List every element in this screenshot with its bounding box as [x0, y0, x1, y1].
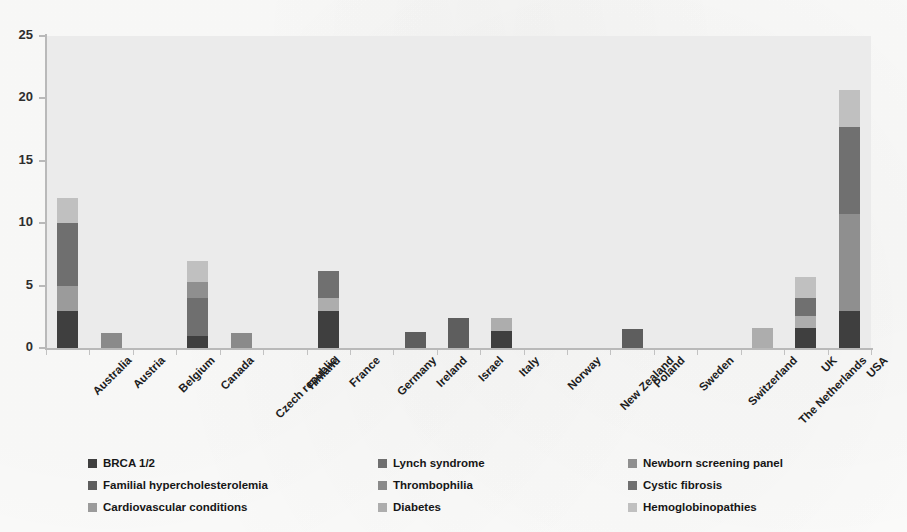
- x-axis-label-ireland: Ireland: [434, 354, 469, 389]
- y-tick-label: 25: [3, 27, 33, 42]
- legend-label: Cystic fibrosis: [643, 479, 722, 491]
- legend-item[interactable]: Cardiovascular conditions: [88, 501, 378, 513]
- legend-label: Thrombophilia: [393, 479, 473, 491]
- bar-canada[interactable]: [187, 261, 208, 348]
- x-axis-label-belgium: Belgium: [176, 354, 217, 395]
- x-tick-mark: [871, 350, 872, 355]
- legend-swatch-icon: [88, 503, 97, 512]
- x-tick-mark: [263, 350, 264, 355]
- x-tick-mark: [784, 350, 785, 355]
- legend-item[interactable]: Hemoglobinopathies: [628, 501, 888, 513]
- x-axis-label-germany: Germany: [394, 354, 438, 398]
- x-axis-label-new-zealand: New Zealand: [617, 354, 675, 412]
- legend-swatch-icon: [88, 481, 97, 490]
- legend-swatch-icon: [88, 459, 97, 468]
- bar-segment: [491, 331, 512, 348]
- bar-austria[interactable]: [101, 333, 122, 348]
- legend-label: Diabetes: [393, 501, 441, 513]
- legend-item[interactable]: BRCA 1/2: [88, 457, 378, 469]
- x-tick-mark: [610, 350, 611, 355]
- bar-segment: [318, 298, 339, 310]
- bars-layer: [46, 36, 871, 348]
- legend-label: Familial hypercholesterolemia: [103, 479, 268, 491]
- legend-item[interactable]: Cystic fibrosis: [628, 479, 888, 491]
- y-tick-label: 0: [3, 339, 33, 354]
- y-tick-label: 15: [3, 152, 33, 167]
- x-tick-mark: [89, 350, 90, 355]
- legend-item[interactable]: Thrombophilia: [378, 479, 628, 491]
- legend-item[interactable]: Newborn screening panel: [628, 457, 888, 469]
- bar-poland[interactable]: [622, 329, 643, 348]
- bar-czech-republic[interactable]: [231, 333, 252, 348]
- legend-item[interactable]: Familial hypercholesterolemia: [88, 479, 378, 491]
- x-axis-label-austria: Austria: [131, 354, 168, 391]
- bar-australia[interactable]: [57, 198, 78, 348]
- bar-segment: [187, 282, 208, 298]
- x-tick-mark: [697, 350, 698, 355]
- legend-swatch-icon: [628, 481, 637, 490]
- x-tick-mark: [46, 350, 47, 355]
- x-axis-label-sweden: Sweden: [696, 354, 735, 393]
- bar-segment: [795, 316, 816, 328]
- bar-segment: [795, 298, 816, 315]
- legend-label: Hemoglobinopathies: [643, 501, 757, 513]
- bar-segment: [57, 198, 78, 223]
- legend-label: Newborn screening panel: [643, 457, 783, 469]
- x-axis-label-norway: Norway: [565, 354, 603, 392]
- legend-item[interactable]: Diabetes: [378, 501, 628, 513]
- bar-uk[interactable]: [795, 277, 816, 348]
- bar-segment: [795, 328, 816, 348]
- x-tick-mark: [133, 350, 134, 355]
- x-tick-mark: [741, 350, 742, 355]
- bar-segment: [839, 214, 860, 310]
- bar-segment: [448, 318, 469, 348]
- x-tick-mark: [437, 350, 438, 355]
- bar-ireland[interactable]: [405, 332, 426, 348]
- x-tick-mark: [567, 350, 568, 355]
- bar-segment: [491, 318, 512, 330]
- bar-segment: [101, 333, 122, 348]
- legend-swatch-icon: [378, 503, 387, 512]
- bar-segment: [795, 277, 816, 298]
- bar-segment: [839, 311, 860, 348]
- x-axis-label-switzerland: Switzerland: [746, 354, 800, 408]
- legend-label: BRCA 1/2: [103, 457, 155, 469]
- x-tick-mark: [654, 350, 655, 355]
- bar-segment: [187, 298, 208, 335]
- bar-segment: [752, 328, 773, 348]
- legend-swatch-icon: [628, 459, 637, 468]
- bar-israel[interactable]: [448, 318, 469, 348]
- y-tick-label: 10: [3, 214, 33, 229]
- bar-usa[interactable]: [839, 90, 860, 348]
- y-tick-mark: [39, 285, 45, 287]
- legend-swatch-icon: [628, 503, 637, 512]
- y-tick-mark: [39, 347, 45, 349]
- x-tick-mark: [393, 350, 394, 355]
- x-tick-mark: [307, 350, 308, 355]
- bar-the-netherlands[interactable]: [752, 328, 773, 348]
- chart-legend: BRCA 1/2Familial hypercholesterolemiaCar…: [88, 452, 888, 518]
- x-tick-mark: [524, 350, 525, 355]
- y-tick-label: 20: [3, 89, 33, 104]
- bar-segment: [405, 332, 426, 348]
- bar-segment: [57, 311, 78, 348]
- bar-segment: [57, 286, 78, 311]
- y-tick-mark: [39, 35, 45, 37]
- bar-segment: [318, 311, 339, 348]
- x-axis-label-uk: UK: [819, 354, 839, 374]
- bar-segment: [622, 329, 643, 348]
- legend-label: Cardiovascular conditions: [103, 501, 247, 513]
- bar-italy[interactable]: [491, 318, 512, 348]
- bar-segment: [231, 333, 252, 348]
- x-axis-label-israel: Israel: [475, 354, 505, 384]
- bar-segment: [187, 336, 208, 348]
- bar-segment: [318, 271, 339, 298]
- bar-france[interactable]: [318, 271, 339, 348]
- x-axis-label-usa: USA: [864, 354, 890, 380]
- legend-item[interactable]: Lynch syndrome: [378, 457, 628, 469]
- y-tick-mark: [39, 160, 45, 162]
- bar-segment: [839, 127, 860, 214]
- x-axis-line: [45, 348, 873, 350]
- y-tick-mark: [39, 222, 45, 224]
- legend-swatch-icon: [378, 481, 387, 490]
